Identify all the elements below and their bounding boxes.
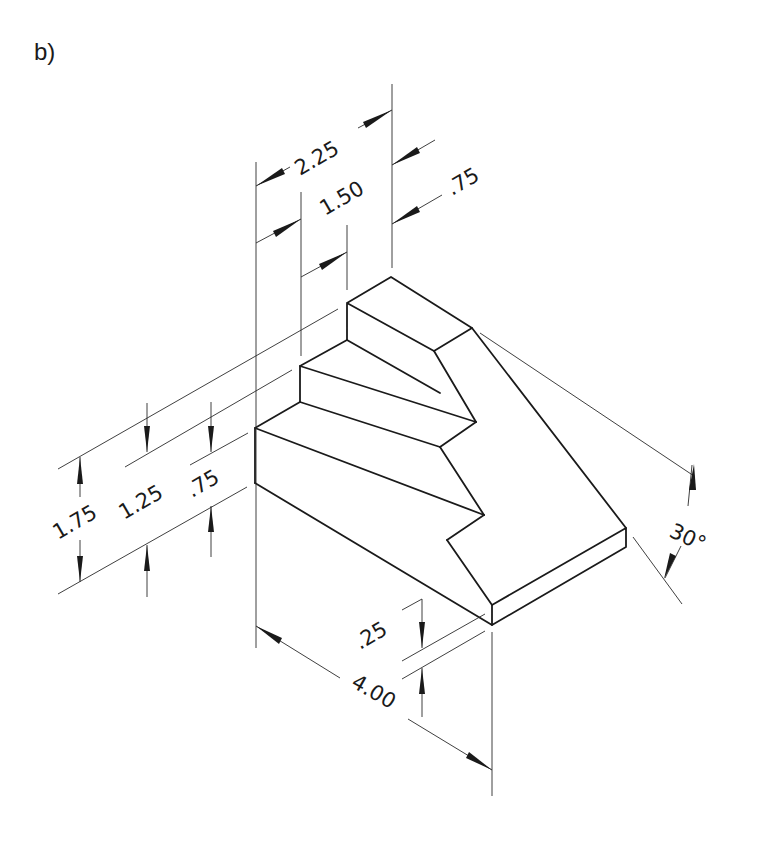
isometric-drawing: 2.25 1.50 .75 1.75 1.25 .75 (0, 0, 761, 842)
lower-step-back-edge (300, 402, 440, 447)
dim-1-50: 1.50 (256, 176, 368, 277)
middle-step-end-edge (440, 422, 476, 447)
dim-text-0-25: .25 (351, 617, 392, 654)
middle-step-outline (300, 340, 347, 402)
middle-step-slope-edge (440, 447, 484, 515)
dim-2-25: 2.25 (256, 110, 392, 186)
lower-slope-edge (447, 540, 492, 605)
dim-0-75-top: .75 (392, 140, 483, 224)
base-slab-outline (492, 528, 626, 625)
dim-text-0-75-left: .75 (183, 465, 224, 502)
dim-text-1-75: 1.75 (49, 500, 102, 544)
dim-angle-30: 30° (664, 464, 710, 579)
dim-text-1-50: 1.50 (316, 176, 369, 220)
dim-text-0-75-top: .75 (443, 163, 484, 200)
dim-text-4-00: 4.00 (348, 670, 401, 714)
dim-1-75: 1.75 (49, 457, 102, 582)
main-slope-edge (472, 328, 626, 528)
middle-step-top-edge (300, 366, 476, 422)
dim-0-75-left: .75 (183, 402, 224, 557)
top-block-outline (347, 277, 472, 351)
stepped-block-object (255, 277, 626, 625)
dim-text-2-25: 2.25 (291, 136, 344, 180)
dim-text-30-degrees: 30° (666, 519, 710, 556)
lower-step-end-edge (447, 515, 484, 540)
dim-text-1-25: 1.25 (115, 480, 168, 524)
